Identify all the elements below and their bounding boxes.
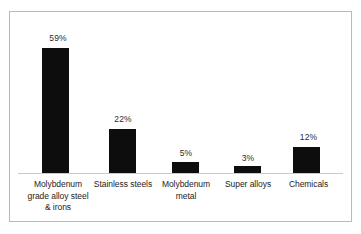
bar-value-label: 12% [266, 132, 351, 142]
bar[interactable] [172, 162, 199, 173]
bar[interactable] [42, 48, 69, 173]
bar[interactable] [293, 147, 320, 173]
bar[interactable] [234, 166, 261, 173]
bar[interactable] [109, 129, 136, 173]
chart-frame: 59% Molybdenum grade alloy steel & irons… [9, 11, 352, 222]
bar-group: 12% Chemicals [266, 12, 351, 221]
bar-category-label: Chemicals [266, 179, 351, 191]
plot-area: 59% Molybdenum grade alloy steel & irons… [10, 12, 351, 221]
bar-category-line: Chemicals [266, 179, 351, 191]
